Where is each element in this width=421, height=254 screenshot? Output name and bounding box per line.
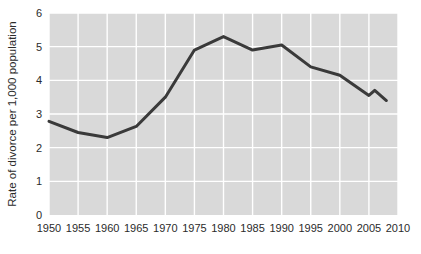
- x-tick-label: 1950: [37, 222, 61, 234]
- x-tick-label: 1990: [269, 222, 293, 234]
- y-tick-label: 2: [36, 142, 42, 154]
- x-tick-label: 1955: [66, 222, 90, 234]
- x-tick-label: 1960: [95, 222, 119, 234]
- x-tick-label: 2005: [357, 222, 381, 234]
- x-tick-label: 1985: [240, 222, 264, 234]
- y-axis-title: Rate of divorce per 1,000 population: [6, 21, 18, 206]
- y-tick-label: 5: [36, 41, 42, 53]
- y-tick-label: 0: [36, 209, 42, 221]
- x-tick-label: 1965: [124, 222, 148, 234]
- y-tick-label: 3: [36, 108, 42, 120]
- x-tick-label: 1970: [153, 222, 177, 234]
- x-tick-label: 1995: [299, 222, 323, 234]
- x-tick-label: 2000: [328, 222, 352, 234]
- x-tick-label: 1980: [211, 222, 235, 234]
- x-tick-label: 1975: [182, 222, 206, 234]
- y-axis-tick-labels: 0123456: [36, 7, 42, 221]
- y-tick-label: 4: [36, 74, 42, 86]
- x-axis-tick-labels: 1950195519601965197019751980198519901995…: [37, 222, 410, 234]
- chart-canvas: 0123456 19501955196019651970197519801985…: [0, 0, 421, 254]
- y-tick-label: 6: [36, 7, 42, 19]
- divorce-rate-line-chart: 0123456 19501955196019651970197519801985…: [0, 0, 421, 254]
- x-tick-label: 2010: [386, 222, 410, 234]
- y-tick-label: 1: [36, 175, 42, 187]
